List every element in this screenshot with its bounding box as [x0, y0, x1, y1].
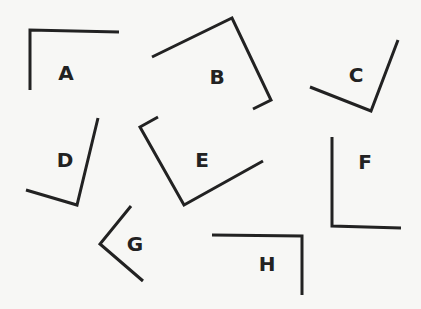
label-b: B	[209, 65, 224, 89]
shape-f: F	[332, 137, 401, 228]
angle-a-lines	[30, 30, 119, 90]
label-h: H	[259, 252, 276, 276]
angle-b-lines	[152, 18, 271, 109]
angle-diagram: A B C D E F G H	[0, 0, 421, 309]
label-d: D	[57, 148, 74, 172]
angle-h-lines	[212, 235, 302, 295]
shape-g: G	[100, 206, 143, 281]
shape-b: B	[152, 18, 271, 109]
shape-c: C	[310, 40, 398, 111]
label-g: G	[127, 232, 143, 256]
shape-h: H	[212, 235, 302, 295]
label-c: C	[349, 63, 364, 87]
shape-a: A	[30, 30, 119, 90]
label-a: A	[58, 61, 74, 85]
shape-e: E	[140, 117, 263, 205]
shape-d: D	[26, 118, 98, 205]
label-f: F	[358, 150, 372, 174]
label-e: E	[195, 148, 209, 172]
